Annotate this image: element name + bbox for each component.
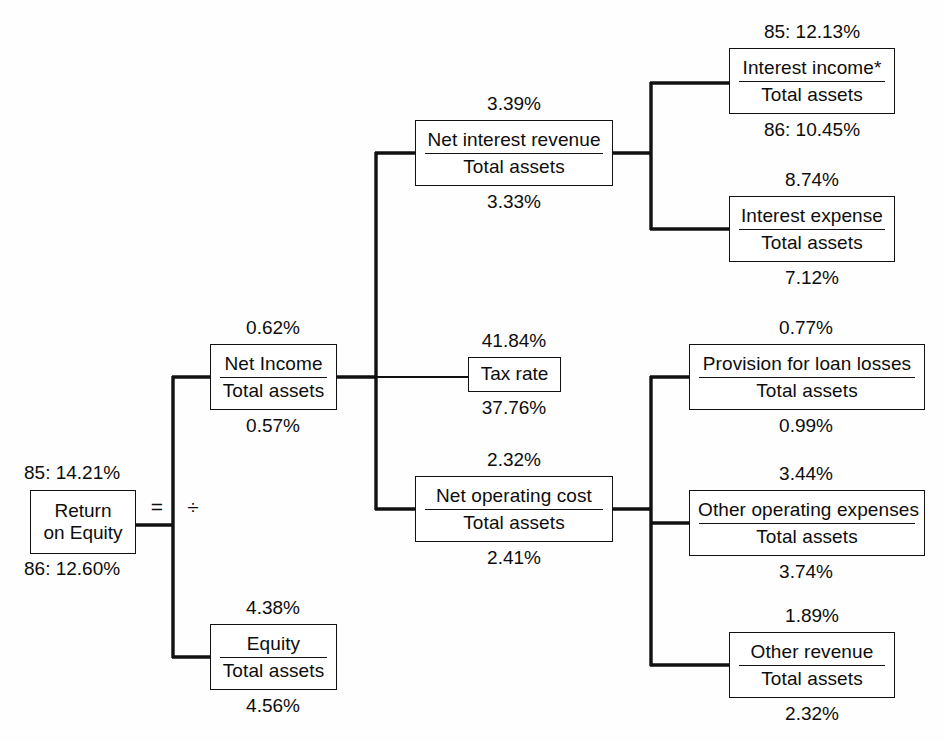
other-revenue-numerator: Other revenue <box>730 638 894 664</box>
divide-operator: ÷ <box>182 496 204 517</box>
interest-income-value-top: 85: 12.13% <box>764 22 860 41</box>
net-operating-cost-numerator: Net operating cost <box>416 482 612 508</box>
net-interest-revenue-value-bottom: 3.33% <box>487 192 541 211</box>
net-income-numerator: Net Income <box>211 350 336 376</box>
net-interest-revenue-denominator: Total assets <box>416 154 612 180</box>
provision-numerator: Provision for loan losses <box>690 350 924 376</box>
interest-expense-value-top: 8.74% <box>785 170 839 189</box>
net-interest-revenue-value-top: 3.39% <box>487 94 541 113</box>
node-return-on-equity[interactable]: Return on Equity <box>30 490 136 554</box>
other-operating-expenses-denominator: Total assets <box>690 524 924 550</box>
tax-rate-value-top: 41.84% <box>482 331 546 350</box>
other-revenue-value-top: 1.89% <box>785 606 839 625</box>
other-operating-expenses-value-bottom: 3.74% <box>779 562 833 581</box>
other-operating-expenses-value-top: 3.44% <box>779 464 833 483</box>
roe-label-line1: Return <box>54 500 111 522</box>
net-operating-cost-value-bottom: 2.41% <box>487 548 541 567</box>
node-provision-for-loan-losses[interactable]: Provision for loan losses Total assets <box>689 344 925 410</box>
interest-expense-value-bottom: 7.12% <box>785 268 839 287</box>
other-operating-expenses-numerator: Other operating expenses <box>690 496 924 522</box>
roe-label-line2: on Equity <box>43 522 122 544</box>
equity-value-bottom: 4.56% <box>246 696 300 715</box>
equals-operator: = <box>146 496 168 517</box>
net-operating-cost-value-top: 2.32% <box>487 450 541 469</box>
node-interest-income[interactable]: Interest income* Total assets <box>729 48 895 114</box>
net-income-value-top: 0.62% <box>246 318 300 337</box>
tax-rate-label: Tax rate <box>481 363 549 385</box>
node-net-income[interactable]: Net Income Total assets <box>210 344 337 410</box>
equity-denominator: Total assets <box>211 658 336 684</box>
node-net-operating-cost[interactable]: Net operating cost Total assets <box>415 476 613 542</box>
roe-value-top: 85: 14.21% <box>24 463 120 482</box>
node-other-operating-expenses[interactable]: Other operating expenses Total assets <box>689 490 925 556</box>
node-equity[interactable]: Equity Total assets <box>210 624 337 690</box>
node-net-interest-revenue[interactable]: Net interest revenue Total assets <box>415 120 613 186</box>
equity-numerator: Equity <box>211 630 336 656</box>
tax-rate-value-bottom: 37.76% <box>482 398 546 417</box>
roe-value-bottom: 86: 12.60% <box>24 559 120 578</box>
net-interest-revenue-numerator: Net interest revenue <box>416 126 612 152</box>
net-operating-cost-denominator: Total assets <box>416 510 612 536</box>
interest-income-numerator: Interest income* <box>730 54 894 80</box>
net-income-denominator: Total assets <box>211 378 336 404</box>
other-revenue-denominator: Total assets <box>730 666 894 692</box>
interest-expense-denominator: Total assets <box>730 230 894 256</box>
roe-decomposition-diagram: = ÷ 85: 14.21% Return on Equity 86: 12.6… <box>0 0 944 741</box>
provision-value-bottom: 0.99% <box>779 416 833 435</box>
equity-value-top: 4.38% <box>246 598 300 617</box>
node-other-revenue[interactable]: Other revenue Total assets <box>729 632 895 698</box>
provision-value-top: 0.77% <box>779 318 833 337</box>
provision-denominator: Total assets <box>690 378 924 404</box>
node-interest-expense[interactable]: Interest expense Total assets <box>729 196 895 262</box>
net-income-value-bottom: 0.57% <box>246 416 300 435</box>
interest-expense-numerator: Interest expense <box>730 202 894 228</box>
other-revenue-value-bottom: 2.32% <box>785 704 839 723</box>
interest-income-value-bottom: 86: 10.45% <box>764 120 860 139</box>
interest-income-denominator: Total assets <box>730 82 894 108</box>
node-tax-rate[interactable]: Tax rate <box>468 357 561 392</box>
